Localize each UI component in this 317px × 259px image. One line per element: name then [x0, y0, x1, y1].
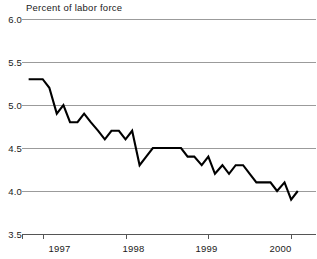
- unemployment-rate-line: [29, 79, 298, 199]
- unemployment-rate-chart: Percent of labor force 6.0 5.5 5.0 4.5 4…: [0, 0, 317, 259]
- gridline-group: [22, 20, 316, 192]
- chart-plot-area: [0, 0, 317, 259]
